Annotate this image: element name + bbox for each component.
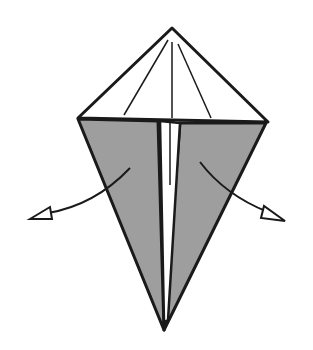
left-flap bbox=[78, 119, 164, 330]
top-flap bbox=[78, 28, 268, 122]
origami-diagram bbox=[0, 0, 313, 350]
